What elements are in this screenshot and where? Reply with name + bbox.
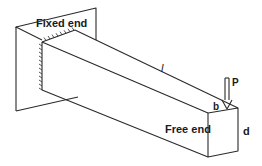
fixed-end-label: Fixed end [36,17,87,29]
beam [42,30,238,157]
depth-label: d [243,125,250,137]
fixed-support-hatching [39,27,75,90]
beam-top-far-edge [75,30,238,108]
beam-top-near-edge [42,42,208,113]
load-label: P [232,77,239,88]
width-label: b [213,101,219,112]
free-end-label: Free end [165,123,211,135]
beam-free-end-face [208,108,238,157]
cantilever-beam-diagram: Fixed end l P b Free end d [0,0,262,166]
